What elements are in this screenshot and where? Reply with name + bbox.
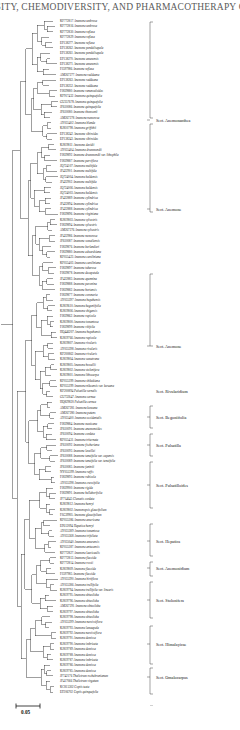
accession-number: FJ597986: [60, 67, 73, 71]
species-name: Anemone quinquefolia: [73, 94, 102, 98]
tree-tip-label: JF610094 Anemone cordata: [60, 432, 95, 436]
accession-number: KF055399: [60, 379, 74, 383]
tree-tip-label: KF772816 Anemone umbrosa: [60, 24, 97, 28]
species-name: Anemone leveillei: [72, 449, 95, 453]
tree-tip-label: FJ839880 Anemone ranunculoides: [60, 89, 104, 93]
accession-number: KJ810798: [60, 126, 74, 130]
tree-tip-label: KJ819793 Anemone lamaepala: [60, 626, 99, 630]
accession-number: AM267291: [60, 604, 75, 608]
accession-number: JQ724004: [60, 175, 74, 179]
accession-number: EF138270: [60, 57, 74, 61]
species-name: Anemone patens: [74, 411, 96, 415]
species-name: Anemone hortensis: [72, 288, 97, 292]
section-label: Sect. Begoniifolia: [156, 415, 186, 420]
tree-tip-label: AY055389 Anemone tomentosa: [60, 529, 100, 533]
section-bracket: [150, 582, 153, 618]
accession-number: FJ839880: [60, 250, 73, 254]
accession-number: FJ839876: [60, 245, 73, 249]
tree-tip-label: FJ839897 Anemone tuberosa: [60, 266, 96, 270]
accession-number: FJ597985: [60, 572, 73, 576]
accession-number: AY055397: [60, 298, 74, 302]
species-name: Anemone somaliensis: [72, 239, 101, 243]
tree-tip-label: KJ819804 Anemone sumatrana: [60, 357, 99, 361]
accession-number: KF772817: [60, 19, 74, 23]
section-bracket: [150, 406, 153, 428]
accession-number: KF772829: [60, 35, 74, 39]
tree-tip-label: HQ829820 Pulsatilla cernua: [60, 400, 96, 404]
accession-number: AY055368: [60, 534, 74, 538]
tree-tip-label: KJ819790 Anemone imbricata: [60, 642, 98, 646]
species-name: Anemone stolonifera: [73, 368, 100, 372]
tree-svg: KF772817 Anemone umbrosaKF772816 Anemone…: [0, 16, 240, 706]
tree-tip-label: FJ839877 Anemone coronaria: [60, 293, 98, 297]
section-label: Sect. Anemonanthea: [156, 118, 191, 123]
species-name: Anemone cernua: [74, 395, 96, 399]
tree-tip-label: JQ724006 Anemone baldensis: [60, 186, 98, 190]
species-name: Anemone shikokiana: [73, 379, 100, 383]
tree-tip-label: KJ819798 Anemone obtusiloba: [60, 615, 99, 619]
tree-tip-label: EF138261 Anemone pendulisepala: [60, 51, 104, 55]
accession-number: AY055404: [60, 148, 74, 152]
accession-number: FJ839888: [60, 282, 73, 286]
accession-number: EF138271: [60, 62, 74, 66]
tree-tip-label: KJ819807 Anemone rivularis: [60, 341, 97, 345]
species-name: Anemone laevicaulis: [73, 551, 100, 555]
accession-number: FJ839897: [60, 266, 73, 270]
tree-tip-label: FJ839894 Anemone sylvestris: [60, 223, 98, 227]
accession-number: EF612094: [60, 524, 74, 528]
tree-tip-label: AM267280 Anemone patens: [60, 411, 96, 415]
species-name: Anemone obtusiloba: [73, 610, 100, 614]
section-label: Sect. Anemone: [156, 207, 181, 212]
tree-tip-label: KF772817 Anemone umbrosa: [60, 19, 97, 23]
accession-number: KJ819787: [60, 658, 74, 662]
accession-number: JF422894: [60, 202, 73, 206]
accession-number: KJ819792: [60, 631, 74, 635]
accession-number: FJ839882: [60, 288, 73, 292]
tree-tip-label: HQ446207 Anemone hupehensis: [60, 330, 101, 334]
species-name: Anemone cylindrica: [72, 202, 98, 206]
accession-number: KJ819788: [60, 653, 74, 657]
tree-tip-label: KC815302 Coptis teeta: [60, 685, 90, 689]
accession-number: FJ839862: [60, 314, 73, 318]
tree-branches: [1, 21, 58, 692]
tree-tip-label: AY055040 Anemone amurensis: [60, 540, 100, 544]
species-name: Anemone faniniii: [72, 465, 94, 469]
accession-number: KJ819811: [60, 143, 73, 147]
scale-bar: 0.05: [14, 702, 74, 718]
species-name: Thalictrum virgatum: [73, 679, 99, 683]
accession-number: AY055389: [60, 529, 74, 533]
species-name: Anemone reflexa: [73, 41, 95, 45]
accession-number: KF772813: [60, 556, 74, 560]
tree-tip-label: EF138262 Anemone pendulisepala: [60, 46, 104, 50]
tree-tip-label: AY055398 Anemone rivularis: [60, 347, 98, 351]
species-name: Anemone multifida: [72, 169, 97, 173]
tree-tip-label: JF422889 Anemone cylindrica: [60, 196, 98, 200]
tree-tip-label: KJ819788 Anemone demissa: [60, 653, 96, 657]
tree-tip-label: FJ839896 Anemone virginiana: [60, 212, 98, 216]
species-name: Anemone hirtiflora: [73, 577, 98, 581]
tree-tip-label: FJ839882 Anemone hortensis: [60, 288, 97, 292]
accession-number: FJ839887: [60, 159, 73, 163]
species-name: Anemone hellaborifolia: [72, 491, 103, 495]
tree-tip-label: KJ819789 Anemone demissa: [60, 647, 96, 651]
tree-tip-label: EF138263 Anemone raddeana: [60, 78, 98, 82]
tree-tip-label: KJ819796 Anemone obtusiloba: [60, 599, 99, 603]
species-name: Anemone tenuifolia var. tenuifolia: [72, 459, 116, 463]
tree-tip-label: JF610088 Anemone tenuifolia var. capensi…: [60, 454, 115, 458]
species-name: Anemone sibiroides: [73, 137, 99, 141]
accession-number: KJ819806: [60, 309, 74, 313]
accession-number: HQ829820: [60, 400, 75, 404]
accession-number: EF138242: [60, 132, 74, 136]
species-name: Anemone glaucifolium: [73, 513, 103, 517]
accession-number: KF055431: [60, 438, 74, 442]
species-name: Anemone rivularis: [73, 347, 98, 351]
species-name: Anemone umbrosa: [73, 19, 97, 23]
accession-number: JF610086: [60, 105, 73, 109]
species-name: Coptis teeta: [74, 685, 89, 689]
species-name: Anemone obtusiloba: [73, 599, 100, 603]
accession-number: EF138262: [60, 46, 74, 50]
accession-number: AY055398: [60, 347, 74, 351]
tree-tip-label: AY055400 Anemone occidentalis: [60, 416, 102, 420]
tree-tip-label: KJ819802 Anemonopsis glaucifolium: [60, 508, 107, 512]
species-name: Anemone occidentalis: [73, 416, 102, 420]
